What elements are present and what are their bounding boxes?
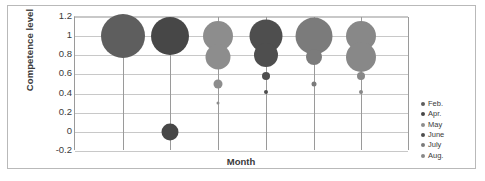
legend-item-aug[interactable]: Aug. xyxy=(421,150,477,160)
legend-marker-icon xyxy=(421,143,425,147)
plot-right-edge xyxy=(408,17,409,150)
data-bubble xyxy=(264,90,268,94)
legend-item-apr[interactable]: Apr. xyxy=(421,109,477,119)
y-axis-tick-label: -0.2 xyxy=(44,145,72,155)
legend-marker-icon xyxy=(421,133,425,137)
data-bubble xyxy=(357,72,365,80)
chart-frame: Competence level 1.210.80.60.40.20-0.2 F… xyxy=(7,5,476,169)
y-axis-tick-label: 1.2 xyxy=(44,11,72,21)
y-axis-tick-label: 0.8 xyxy=(44,49,72,59)
legend-item-may[interactable]: May xyxy=(421,120,477,130)
legend-marker-icon xyxy=(421,154,425,158)
chart-legend: Feb.Apr.MayJuneJulyAug. xyxy=(421,99,477,161)
legend-item-label: Feb. xyxy=(428,100,443,108)
data-bubble xyxy=(206,45,231,70)
data-bubble xyxy=(306,49,322,65)
bubble-chart: Competence level 1.210.80.60.40.20-0.2 F… xyxy=(0,0,485,181)
legend-item-label: June xyxy=(428,131,444,139)
data-bubble xyxy=(151,17,189,55)
data-bubble xyxy=(162,123,179,140)
legend-marker-icon xyxy=(421,112,425,116)
legend-item-label: Apr. xyxy=(428,110,441,118)
y-axis-title: Competence level xyxy=(24,0,40,100)
legend-item-label: Aug. xyxy=(428,152,443,160)
data-bubble xyxy=(359,90,363,94)
y-axis-tick-label: 0.2 xyxy=(44,107,72,117)
y-axis-tick-labels: 1.210.80.60.40.20-0.2 xyxy=(44,16,72,150)
horizontal-gridline xyxy=(75,94,408,95)
horizontal-gridline xyxy=(75,113,408,114)
y-axis-tick-label: 0.4 xyxy=(44,88,72,98)
legend-item-label: July xyxy=(428,141,441,149)
legend-marker-icon xyxy=(421,123,425,127)
y-axis-tick-label: 0.6 xyxy=(44,68,72,78)
legend-item-july[interactable]: July xyxy=(421,140,477,150)
data-bubble xyxy=(254,43,278,67)
x-axis-title: Month xyxy=(74,156,408,167)
data-bubble xyxy=(346,42,376,72)
data-bubble xyxy=(262,72,270,80)
data-bubble xyxy=(217,102,220,105)
horizontal-gridline xyxy=(75,132,408,133)
data-bubble xyxy=(101,14,145,58)
legend-item-feb[interactable]: Feb. xyxy=(421,99,477,109)
plot-area xyxy=(74,16,408,150)
horizontal-gridline xyxy=(75,151,408,152)
legend-item-label: May xyxy=(428,121,442,129)
data-bubble xyxy=(214,80,223,89)
data-bubble xyxy=(311,82,316,87)
legend-item-june[interactable]: June xyxy=(421,130,477,140)
y-axis-tick-label: 1 xyxy=(44,30,72,40)
y-axis-tick-label: 0 xyxy=(44,126,72,136)
legend-marker-icon xyxy=(421,102,425,106)
